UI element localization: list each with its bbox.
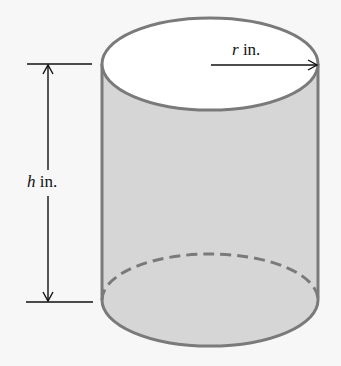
height-unit: in. xyxy=(36,172,58,191)
height-label: h in. xyxy=(27,172,57,192)
cylinder-top xyxy=(102,18,318,110)
radius-variable: r xyxy=(232,40,239,59)
radius-label: r in. xyxy=(232,40,260,60)
height-variable: h xyxy=(27,172,36,191)
radius-unit: in. xyxy=(239,40,261,59)
cylinder-diagram: r in. h in. xyxy=(0,0,341,366)
